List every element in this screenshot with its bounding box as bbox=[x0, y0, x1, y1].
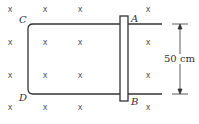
label-b: B bbox=[131, 97, 138, 107]
field-x-mark: x bbox=[146, 72, 151, 80]
field-x-mark: x bbox=[146, 39, 151, 47]
field-x-mark: x bbox=[8, 6, 13, 14]
sliding-rod bbox=[120, 16, 128, 101]
field-x-mark: x bbox=[78, 72, 83, 80]
field-x-mark: x bbox=[78, 39, 83, 47]
field-x-mark: x bbox=[146, 104, 151, 112]
label-d: D bbox=[19, 93, 27, 103]
field-x-mark: x bbox=[146, 6, 151, 14]
field-x-mark: x bbox=[78, 104, 83, 112]
field-x-mark: x bbox=[8, 39, 13, 47]
field-x-mark: x bbox=[43, 104, 48, 112]
field-x-mark: x bbox=[8, 72, 13, 80]
rail-frame bbox=[28, 24, 162, 94]
label-a: A bbox=[131, 14, 138, 24]
dimension-label: 50 cm bbox=[164, 54, 195, 64]
label-c: C bbox=[19, 15, 27, 25]
field-x-mark: x bbox=[8, 104, 13, 112]
field-x-mark: x bbox=[43, 6, 48, 14]
field-x-mark: x bbox=[43, 39, 48, 47]
field-x-mark: x bbox=[78, 6, 83, 14]
field-x-mark: x bbox=[43, 72, 48, 80]
